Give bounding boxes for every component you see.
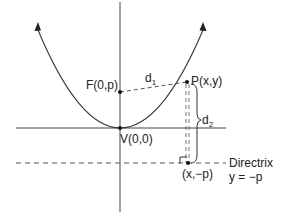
directrix-equation: y = −p bbox=[229, 171, 262, 183]
vertex-point bbox=[118, 126, 122, 130]
vertex-label: V(0,0) bbox=[120, 133, 153, 145]
directrix-label: Directrix bbox=[229, 157, 273, 169]
focus-point bbox=[118, 90, 122, 94]
d1-main: d bbox=[145, 71, 152, 85]
d1-sub: 1 bbox=[152, 78, 156, 87]
arrow-up-right-icon bbox=[200, 22, 207, 31]
arrow-up-left-icon bbox=[35, 22, 42, 31]
parabola-diagram: F(0,p) P(x,y) d1 d2 V(0,0) (x,−p) Direct… bbox=[0, 0, 283, 215]
d2-main: d bbox=[202, 113, 209, 127]
d2-label: d2 bbox=[202, 114, 213, 131]
d1-label: d1 bbox=[145, 72, 156, 89]
foot-label: (x,−p) bbox=[182, 168, 213, 180]
foot-point bbox=[186, 161, 190, 165]
focus-label: F(0,p) bbox=[86, 79, 118, 91]
point-p-label: P(x,y) bbox=[191, 75, 222, 87]
point-p bbox=[185, 80, 189, 84]
d2-brace bbox=[191, 84, 201, 163]
d2-sub: 2 bbox=[209, 120, 213, 129]
